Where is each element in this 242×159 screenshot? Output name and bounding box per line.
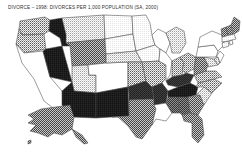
figure-caption: DIVORCE – 1998: DIVORCES PER 1,000 POPUL…	[8, 5, 158, 11]
state-alaska-panhandle	[72, 129, 88, 144]
state-washington	[19, 17, 50, 35]
divorce-rate-map-figure: DIVORCE – 1998: DIVORCES PER 1,000 POPUL…	[0, 0, 242, 159]
us-choropleth-map	[0, 13, 242, 159]
state-alaska	[28, 105, 74, 137]
us-map-icon	[0, 13, 242, 159]
state-arkansas	[152, 83, 168, 105]
state-florida	[182, 113, 204, 143]
state-michigan	[166, 27, 186, 53]
state-alaska-aleutians	[28, 140, 31, 144]
state-wyoming	[66, 39, 106, 66]
state-montana	[62, 15, 105, 43]
state-minnesota	[132, 15, 155, 51]
